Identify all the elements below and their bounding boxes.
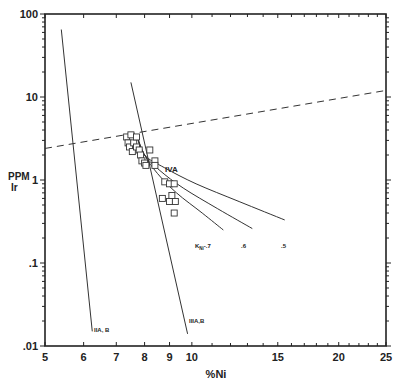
y-tick-label: 100	[20, 8, 38, 20]
label-iiab: IIA, B	[94, 327, 110, 333]
data-point-square	[147, 147, 153, 153]
y-tick-label: 1	[32, 174, 38, 186]
data-point-square	[171, 181, 177, 187]
line-iia-b	[61, 30, 92, 332]
label-k6: .6	[241, 243, 247, 249]
x-tick-label: 7	[113, 351, 119, 363]
line-iiia-b	[131, 82, 188, 333]
label-iva: IVA	[165, 165, 178, 174]
x-tick-label: 9	[166, 351, 172, 363]
data-point-square	[152, 162, 158, 168]
x-tick-label: 5	[42, 351, 48, 363]
chart: .01.11101005678910152025 %Ni PPM Ir IVA …	[0, 0, 401, 385]
x-tick-label: 6	[81, 351, 87, 363]
x-tick-label: 15	[272, 351, 284, 363]
x-tick-label: 20	[333, 351, 345, 363]
x-tick-label: 8	[142, 351, 148, 363]
data-point-square	[167, 199, 173, 205]
data-point-square	[172, 199, 178, 205]
data-point-square	[128, 132, 134, 138]
x-tick-label: 25	[380, 351, 392, 363]
x-tick-label: 10	[186, 351, 198, 363]
data-point-square	[138, 152, 144, 158]
line--6	[136, 135, 252, 229]
y-tick-label: .1	[29, 257, 38, 269]
y-axis-label-ir: Ir	[11, 182, 18, 193]
label-kni-7: KNi-.7	[195, 243, 212, 251]
y-tick-label: 10	[26, 91, 38, 103]
label-k5: .5	[281, 243, 287, 249]
data-point-square	[159, 195, 165, 201]
y-tick-label: .01	[23, 340, 38, 352]
data-lines	[45, 30, 386, 334]
data-point-square	[169, 193, 175, 199]
data-point-square	[171, 210, 177, 216]
data-point-square	[143, 162, 149, 168]
y-axis-label-ppm: PPM	[8, 171, 30, 182]
line-dashed-reference	[45, 90, 386, 148]
plot-border	[45, 14, 386, 346]
label-iiiab: IIIA,B	[189, 318, 205, 324]
data-point-square	[133, 134, 139, 140]
plot-frame	[45, 14, 386, 346]
axis-labels: %Ni PPM Ir IVA IIA, B IIIA,B KNi-.7 .6 .…	[8, 165, 287, 380]
axis-ticks: .01.11101005678910152025	[20, 8, 392, 363]
x-axis-label: %Ni	[206, 368, 227, 380]
